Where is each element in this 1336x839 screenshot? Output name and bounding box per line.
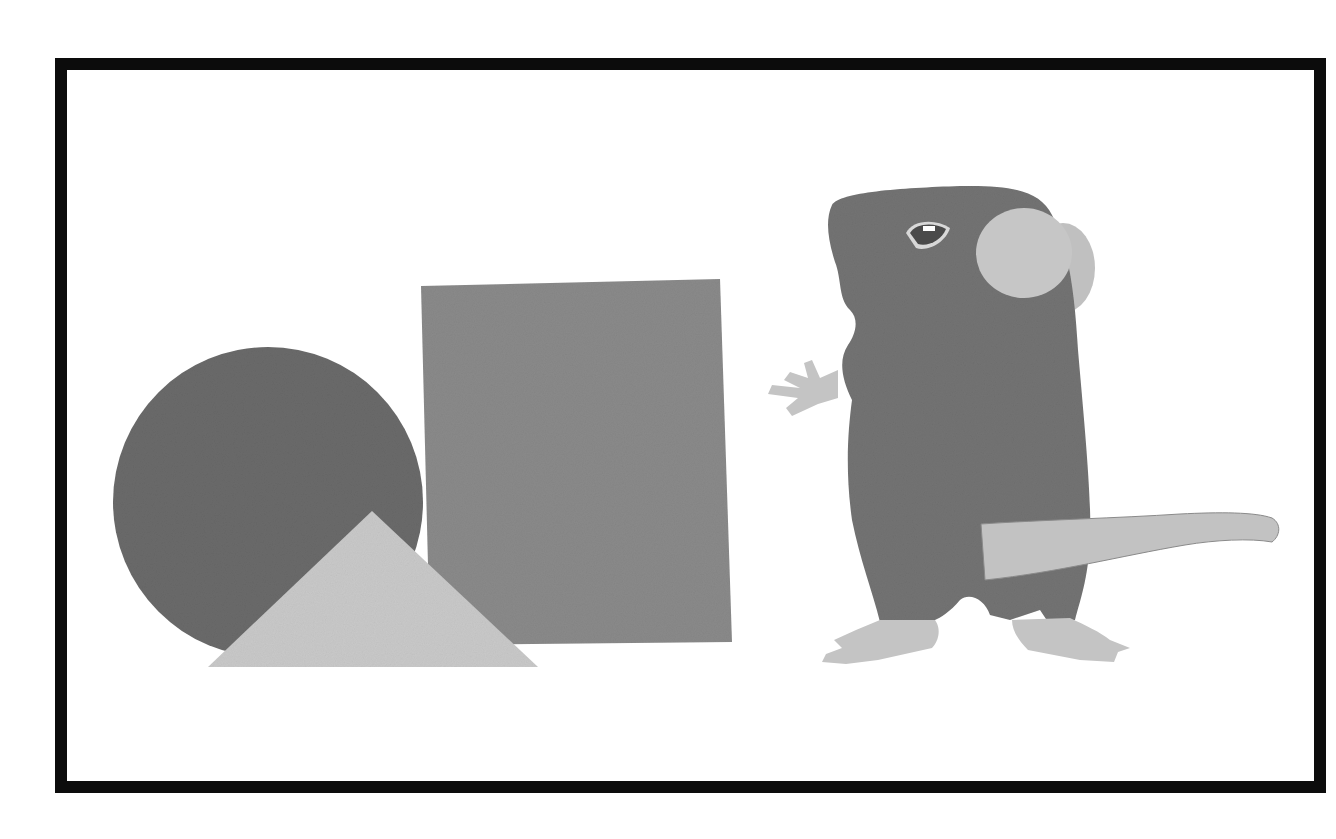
mouse-left-foot xyxy=(822,620,939,664)
mouse-raised-paw xyxy=(768,360,838,416)
mouse-character xyxy=(768,186,1279,664)
mouse-right-foot xyxy=(1012,618,1130,662)
felt-rectangle xyxy=(421,279,732,645)
felt-scene xyxy=(0,0,1336,839)
mouse-tail xyxy=(981,513,1279,580)
mouse-front-ear xyxy=(976,208,1072,298)
